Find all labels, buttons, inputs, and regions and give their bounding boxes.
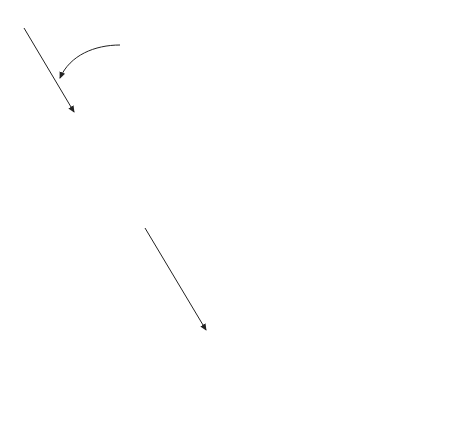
reaction-arrow: [145, 228, 206, 330]
amylase-arrow: [24, 28, 74, 112]
amylase-hydrolysis-diagram: [0, 0, 469, 446]
hoh-arrow: [60, 45, 120, 78]
